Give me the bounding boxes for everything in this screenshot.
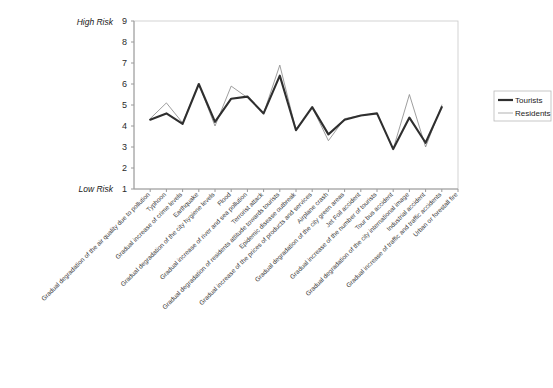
legend-label-residents: Residents	[515, 109, 551, 118]
y-tick-label: 6	[122, 79, 127, 89]
x-axis-category-label: Gradual increase of the prices of produc…	[197, 191, 313, 307]
y-tick-label: 8	[122, 37, 127, 47]
y-tick-label: 7	[122, 58, 127, 68]
y-tick-label: 2	[122, 163, 127, 173]
plot-area-frame	[134, 21, 458, 189]
y-tick-label: 9	[122, 16, 127, 26]
y-tick-label: 5	[122, 100, 127, 110]
series-line-residents	[150, 65, 442, 149]
y-axis-ticks: 123456789	[122, 16, 134, 194]
risk-perception-line-chart: 123456789 High Risk Low Risk Gradual deg…	[0, 0, 553, 388]
y-tick-label: 1	[122, 184, 127, 194]
high-risk-annotation: High Risk	[77, 17, 114, 27]
x-axis-category-label: Gradual degradation of the air quality d…	[40, 190, 152, 302]
y-tick-label: 4	[122, 121, 127, 131]
series-line-tourists	[150, 76, 442, 150]
low-risk-annotation: Low Risk	[79, 184, 114, 194]
legend-label-tourists: Tourists	[515, 96, 543, 105]
chart-legend: Tourists Residents	[494, 91, 551, 121]
x-axis-category-label: Gradual increase of crime levels	[114, 191, 184, 261]
chart-canvas: 123456789 High Risk Low Risk Gradual deg…	[0, 0, 553, 388]
x-axis-category-labels: Gradual degradation of the air quality d…	[40, 190, 459, 311]
y-tick-label: 3	[122, 142, 127, 152]
